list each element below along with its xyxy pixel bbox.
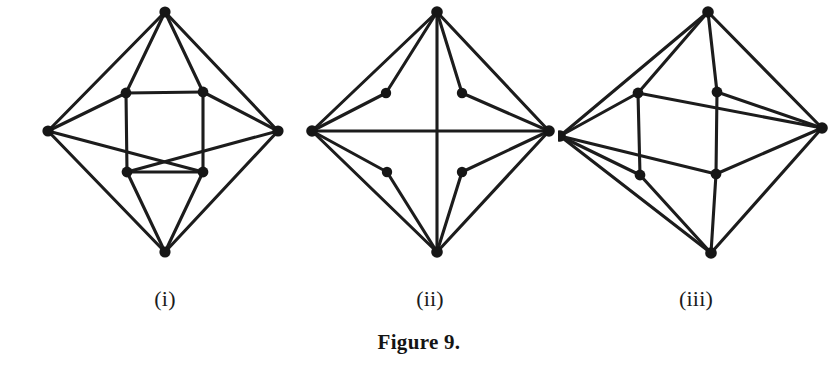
edge-bottom-left [48, 131, 165, 252]
edge-top-left [560, 12, 708, 136]
edge-inner-top [126, 92, 203, 93]
vertex-outer-bottom [431, 246, 443, 258]
graph-iii-vertices [558, 6, 828, 259]
edge-left-innerlowleft [560, 136, 640, 175]
edge-right-innerupright [462, 93, 549, 131]
graph-drawing-i [20, 0, 300, 292]
graph-panel-ii [290, 0, 570, 292]
edge-top-innerupleft [126, 12, 165, 93]
vertex-inner-lower-left [382, 167, 392, 177]
graph-i-vertices [42, 6, 283, 257]
panel-label-ii: (ii) [370, 286, 490, 312]
vertex-outer-right [272, 125, 283, 136]
vertex-inner-upper-right [712, 87, 723, 98]
edge-top-innerupright [165, 12, 203, 92]
edge-bottom-innerlowright [165, 172, 203, 252]
graph-i-edges [48, 12, 278, 252]
vertex-inner-upper-left [633, 88, 644, 99]
edge-bottom-innerlowleft [127, 172, 165, 252]
vertex-outer-right [816, 122, 828, 134]
vertex-inner-upper-left [121, 88, 132, 99]
edge-right-innerlowright [462, 131, 549, 172]
edge-bottom-left [312, 131, 437, 252]
vertex-inner-upper-right [198, 87, 209, 98]
vertex-inner-upper-right [457, 88, 467, 98]
graph-drawing-iii [558, 0, 838, 292]
edge-right-innerupright [203, 92, 278, 131]
edge-bottom-right [165, 131, 278, 252]
edge-top-left [48, 12, 165, 131]
vertex-inner-lower-left [635, 170, 646, 181]
vertex-outer-bottom [705, 247, 717, 259]
edge-top-right [165, 12, 278, 131]
edge-left-innerupleft [48, 93, 126, 131]
panel-captions-row: (i) (ii) (iii) [0, 286, 838, 326]
panel-label-iii: (iii) [636, 286, 756, 312]
edge-top-left [312, 12, 437, 131]
edge-inner-left [126, 93, 127, 172]
vertex-outer-top [702, 6, 714, 18]
edge-right-innerlowright [716, 128, 822, 174]
edge-left-innerupleft [312, 93, 386, 131]
edge-left-innerupleft [560, 93, 638, 136]
graph-drawings-row [0, 0, 838, 292]
vertex-inner-lower-right [711, 169, 722, 180]
figure-caption: Figure 9. [0, 330, 838, 355]
vertex-inner-lower-right [457, 167, 467, 177]
graph-drawing-ii [290, 0, 570, 292]
vertex-outer-top [159, 6, 170, 17]
vertex-outer-bottom [159, 246, 170, 257]
panel-label-i: (i) [105, 286, 225, 312]
edge-bottom-right [437, 131, 549, 252]
graph-iii-edges [560, 12, 822, 253]
graph-ii-edges [312, 12, 549, 252]
edge-top-innerupleft [638, 12, 708, 93]
edge-inner-right [716, 92, 717, 174]
vertex-inner-lower-right [198, 167, 209, 178]
edge-bottom-right [711, 128, 822, 253]
figure-9: (i) (ii) (iii) Figure 9. [0, 0, 838, 373]
graph-panel-iii [558, 0, 838, 292]
edge-bottom-innerlowright [711, 174, 716, 253]
vertex-inner-upper-left [381, 88, 391, 98]
vertex-outer-right [543, 125, 555, 137]
graph-panel-i [20, 0, 300, 292]
vertex-outer-left [42, 125, 53, 136]
vertex-outer-top [431, 6, 443, 18]
edge-bottom-innerlowleft [640, 175, 711, 253]
edge-inner-left [638, 93, 640, 175]
vertex-inner-lower-left [122, 167, 133, 178]
vertex-outer-left [306, 125, 318, 137]
edge-top-innerupright [708, 12, 717, 92]
